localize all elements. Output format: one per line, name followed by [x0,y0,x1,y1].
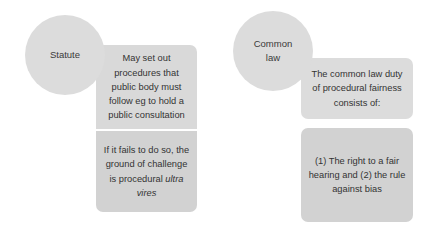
circle-statute: Statute [25,15,105,95]
common-law-box-duty-text: The common law duty of procedural fairne… [308,67,406,110]
statute-box-ultra-vires: If it fails to do so, the ground of chal… [96,131,197,212]
circle-statute-label: Statute [50,48,80,62]
circle-common-law-label: Commonlaw [254,37,293,65]
common-law-box-duty: The common law duty of procedural fairne… [301,58,413,119]
statute-box-procedures-text: May set out procedures that public body … [103,51,190,122]
procedural-fairness-diagram: Statute May set out procedures that publ… [0,0,427,233]
statute-box-ultra-vires-text: If it fails to do so, the ground of chal… [103,143,190,200]
common-law-box-elements-text: (1) The right to a fair hearing and (2) … [308,154,406,197]
circle-common-law-label-line1: Common [254,38,293,49]
circle-common-law-label-line2: law [266,52,280,63]
common-law-box-elements: (1) The right to a fair hearing and (2) … [301,128,413,222]
circle-common-law: Commonlaw [233,11,313,91]
statute-box-procedures: May set out procedures that public body … [96,45,197,129]
